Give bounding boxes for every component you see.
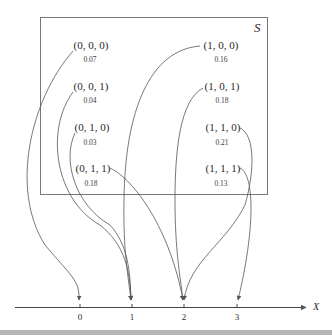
outcome-label: (1, 1, 0) (206, 122, 241, 133)
outcome-label: (0, 1, 0) (75, 122, 110, 133)
outcome-label: (0, 0, 0) (74, 40, 109, 51)
outcome-probability: 0.18 (215, 97, 228, 105)
outcome-label: (1, 0, 0) (204, 40, 239, 51)
axis-tick-label-3: 3 (235, 313, 240, 322)
arrow-011-to-2 (110, 168, 183, 300)
outcome-label: (1, 0, 1) (205, 81, 240, 92)
arrow-010-to-1 (70, 133, 131, 300)
outcome-label: (1, 1, 1) (206, 163, 241, 174)
outcome-label: (0, 0, 1) (74, 81, 109, 92)
outcome-probability: 0.16 (214, 56, 227, 64)
outcome-probability: 0.07 (83, 56, 96, 64)
outcome-probability: 0.21 (215, 139, 228, 147)
random-variable-mapping-diagram (0, 0, 332, 335)
bottom-border (0, 330, 332, 335)
arrow-110-to-2 (184, 128, 252, 300)
arrow-100-to-1 (124, 46, 200, 300)
sample-space-label: S (254, 21, 261, 34)
outcome-probability: 0.13 (214, 180, 227, 188)
x-axis-label: X (313, 302, 319, 312)
outcome-probability: 0.03 (83, 139, 96, 147)
arrow-000-to-0 (27, 51, 79, 300)
outcome-label: (0, 1, 1) (76, 163, 111, 174)
axis-tick-label-0: 0 (78, 313, 83, 322)
axis-tick-label-1: 1 (130, 313, 135, 322)
axis-tick-label-2: 2 (182, 313, 187, 322)
outcome-probability: 0.04 (83, 97, 96, 105)
outcome-probability: 0.18 (84, 180, 97, 188)
